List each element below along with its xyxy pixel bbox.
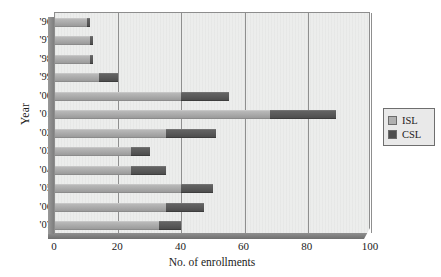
bar-segment-isl bbox=[55, 55, 90, 64]
bar-segment-isl bbox=[55, 110, 270, 119]
bar-segment-csl bbox=[181, 184, 213, 193]
bar-row bbox=[55, 221, 371, 230]
bar-row bbox=[55, 184, 371, 193]
legend-label: ISL bbox=[402, 115, 418, 126]
bar-row bbox=[55, 129, 371, 138]
legend-swatch-csl-icon bbox=[388, 130, 397, 139]
enrollments-bar-chart: Year '96'97'98'99'00'01'02'03'04'05'06'0… bbox=[0, 0, 441, 277]
bar-segment-csl bbox=[131, 166, 166, 175]
x-tick-label-80: 80 bbox=[287, 240, 327, 252]
legend-label: CSL bbox=[402, 129, 421, 140]
bar-segment-csl bbox=[90, 55, 93, 64]
x-axis-floor bbox=[48, 234, 370, 239]
bar-segment-csl bbox=[270, 110, 336, 119]
plot-texture bbox=[55, 13, 369, 233]
bar-segment-csl bbox=[99, 73, 118, 82]
bar-segment-csl bbox=[90, 36, 93, 45]
x-tick-label-60: 60 bbox=[224, 240, 264, 252]
bar-segment-csl bbox=[166, 203, 204, 212]
legend-item-isl[interactable]: ISL bbox=[388, 113, 431, 127]
bar-segment-isl bbox=[55, 184, 181, 193]
bar-row bbox=[55, 73, 371, 82]
bar-segment-csl bbox=[131, 147, 150, 156]
plot-area bbox=[54, 12, 370, 234]
bar-row bbox=[55, 55, 371, 64]
bar-segment-isl bbox=[55, 92, 181, 101]
gridline-20 bbox=[118, 13, 119, 233]
x-tick-label-40: 40 bbox=[160, 240, 200, 252]
gridline-100 bbox=[371, 13, 372, 233]
bar-row bbox=[55, 147, 371, 156]
bar-segment-isl bbox=[55, 73, 99, 82]
x-tick-label-100: 100 bbox=[350, 240, 390, 252]
bar-row bbox=[55, 18, 371, 27]
gridline-40 bbox=[181, 13, 182, 233]
bar-row bbox=[55, 92, 371, 101]
bar-segment-isl bbox=[55, 166, 131, 175]
bar-segment-csl bbox=[181, 92, 228, 101]
bar-segment-isl bbox=[55, 36, 90, 45]
bar-segment-csl bbox=[87, 18, 90, 27]
chart-legend: ISLCSL bbox=[383, 108, 435, 146]
x-axis-tick-labels: 020406080100 bbox=[54, 240, 370, 254]
bar-segment-isl bbox=[55, 147, 131, 156]
gridline-60 bbox=[245, 13, 246, 233]
legend-item-csl[interactable]: CSL bbox=[388, 127, 431, 141]
x-tick-label-20: 20 bbox=[97, 240, 137, 252]
x-axis-title: No. of enrollments bbox=[54, 256, 370, 268]
bar-row bbox=[55, 110, 371, 119]
bar-row bbox=[55, 36, 371, 45]
bar-row bbox=[55, 166, 371, 175]
bar-segment-csl bbox=[159, 221, 181, 230]
gridline-80 bbox=[308, 13, 309, 233]
bar-segment-isl bbox=[55, 129, 166, 138]
x-tick-label-0: 0 bbox=[34, 240, 74, 252]
bar-segment-isl bbox=[55, 18, 87, 27]
bar-segment-csl bbox=[166, 129, 217, 138]
legend-swatch-isl-icon bbox=[388, 116, 397, 125]
bar-segment-isl bbox=[55, 203, 166, 212]
bar-row bbox=[55, 203, 371, 212]
bar-segment-isl bbox=[55, 221, 159, 230]
